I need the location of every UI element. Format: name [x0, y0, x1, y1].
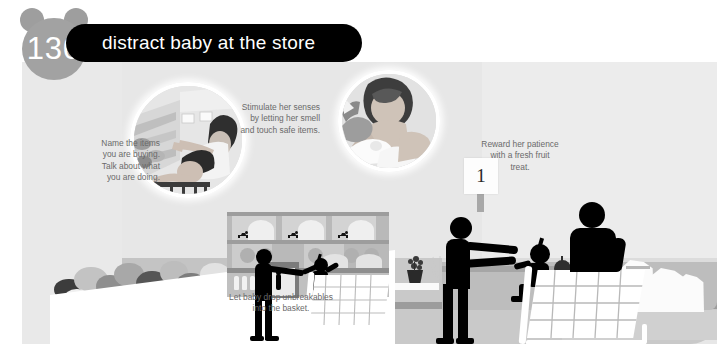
aisle-sign-post — [477, 194, 484, 212]
shelf-package-graphic — [248, 220, 274, 240]
crawling-baby-icon — [236, 225, 250, 233]
illustration-plate: 1 — [22, 62, 717, 344]
center-cart-frame — [386, 312, 390, 330]
center-adult-foot — [250, 336, 264, 341]
right-baby-head — [530, 244, 550, 264]
plant-leaf — [417, 265, 422, 270]
center-cart-wheel — [370, 332, 379, 341]
apple-stem — [561, 256, 563, 261]
right-adult-foot — [456, 338, 474, 344]
plant-shelf — [395, 283, 439, 290]
right-cart-frame — [642, 324, 647, 344]
title-bar: distract baby at the store — [66, 24, 362, 62]
right-cart-frame — [526, 340, 646, 344]
shelf-package-graphic — [356, 254, 382, 268]
shelf-package-graphic — [298, 220, 324, 240]
right-adult-foot — [436, 338, 454, 344]
caption-left: Name the items you are buying. Talk abou… — [36, 138, 160, 184]
crawling-baby-icon — [286, 225, 300, 233]
inset-touching-produce — [338, 70, 440, 172]
right-adult-head — [450, 217, 472, 239]
shelf-bottle — [234, 276, 239, 290]
shelf-package-graphic — [348, 220, 374, 240]
cashier-head — [579, 202, 605, 228]
plant-pot — [407, 270, 423, 283]
crawling-baby-icon — [336, 225, 350, 233]
center-cart-wheel — [314, 332, 323, 341]
shelf-bottle — [242, 276, 247, 290]
caption-right: Reward her patience with a fresh fruit t… — [460, 139, 580, 173]
caption-bottom-center: Let baby drop unbreakables into the bask… — [202, 292, 360, 315]
plant-stem — [414, 262, 415, 271]
page-title: distract baby at the store — [66, 32, 315, 54]
shelf-round-item — [240, 248, 255, 263]
caption-top-center: Stimulate her senses by letting her smel… — [208, 102, 320, 136]
right-adult-leg — [458, 284, 468, 342]
right-adult-leg — [443, 284, 453, 342]
illustration-page: 1 — [0, 0, 717, 363]
bag-rim — [626, 266, 650, 269]
crate-figure-icon — [276, 274, 281, 290]
inset-scene-b — [342, 74, 436, 168]
center-adult-foot — [265, 336, 279, 341]
right-cart-grid — [527, 270, 645, 338]
